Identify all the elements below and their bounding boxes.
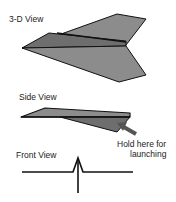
label-side-view: Side View bbox=[19, 92, 57, 102]
bottom-wing bbox=[22, 46, 146, 82]
label-3d-view: 3-D View bbox=[9, 14, 43, 24]
label-hold-line2: launching bbox=[130, 149, 166, 159]
side-wing bbox=[21, 108, 130, 117]
plane-3d-view bbox=[22, 14, 146, 82]
label-hold-line1: Hold here for bbox=[117, 139, 166, 149]
plane-front-view bbox=[22, 158, 133, 193]
plane-side-view bbox=[21, 108, 130, 132]
label-front-view: Front View bbox=[16, 150, 56, 160]
